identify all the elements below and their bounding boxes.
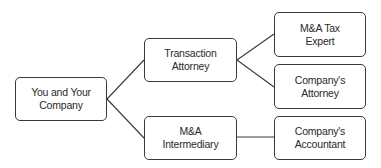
node-label-line: Transaction: [164, 47, 216, 60]
node-ma-tax-expert: M&A Tax Expert: [274, 12, 366, 57]
node-label-line: Company's: [295, 125, 346, 138]
node-label-line: Company's: [295, 74, 345, 87]
edge-you-to-transaction-attorney: [107, 60, 144, 99]
node-label-line: Attorney: [164, 60, 216, 73]
node-you-and-your-company: You and Your Company: [15, 77, 107, 121]
node-ma-intermediary: M&A Intermediary: [144, 116, 237, 160]
edge-transaction-attorney-to-company-attorney: [237, 60, 274, 87]
edge-transaction-attorney-to-tax-expert: [237, 34, 274, 60]
node-label-line: Expert: [300, 35, 340, 48]
node-label-line: Intermediary: [163, 138, 219, 151]
node-label-line: Accountant: [295, 138, 346, 151]
node-company-attorney: Company's Attorney: [274, 64, 366, 109]
edge-you-to-ma-intermediary: [107, 99, 144, 138]
node-label-line: M&A: [163, 125, 219, 138]
node-label-line: M&A Tax: [300, 22, 340, 35]
node-label-line: Company: [31, 99, 91, 112]
node-company-accountant: Company's Accountant: [274, 116, 366, 160]
node-label-line: You and Your: [31, 86, 91, 99]
node-transaction-attorney: Transaction Attorney: [144, 38, 237, 82]
node-label-line: Attorney: [295, 87, 345, 100]
